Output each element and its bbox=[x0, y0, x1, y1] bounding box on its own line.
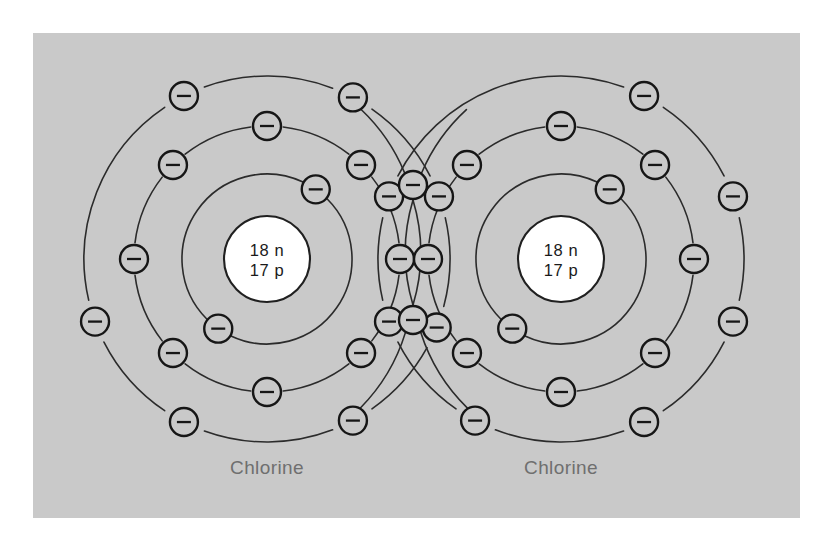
right-chlorine-atom-nucleus-neutrons-label: 18 n bbox=[544, 241, 579, 259]
right-chlorine-atom-caption: Chlorine bbox=[524, 457, 598, 478]
left-chlorine-atom-middle-shell-electron-6 bbox=[159, 339, 187, 367]
right-chlorine-atom-outer-shell-electron-1 bbox=[630, 82, 658, 110]
right-chlorine-atom-nucleus-circle bbox=[518, 216, 604, 302]
left-chlorine-atom-outer-shell-electron-3 bbox=[425, 182, 453, 210]
chlorine-molecule-diagram: 18 n17 p18 n17 p ChlorineChlorine bbox=[0, 0, 829, 544]
left-chlorine-atom-nucleus-neutrons-label: 18 n bbox=[250, 241, 285, 259]
right-chlorine-atom-outer-shell-electron-4 bbox=[630, 408, 658, 436]
right-chlorine-atom-outer-shell-electron-2 bbox=[719, 182, 747, 210]
right-chlorine-atom-inner-shell-electron-2 bbox=[498, 315, 526, 343]
right-chlorine-atom-middle-shell-electron-3 bbox=[680, 245, 708, 273]
right-chlorine-atom-outer-shell-electron-5 bbox=[461, 407, 489, 435]
left-chlorine-atom-outer-shell-electron-1 bbox=[170, 82, 198, 110]
right-chlorine-atom-middle-shell-electron-6 bbox=[453, 339, 481, 367]
left-chlorine-atom-outer-shell-electron-6 bbox=[170, 408, 198, 436]
right-chlorine-atom-nucleus-protons-label: 17 p bbox=[544, 261, 579, 279]
left-chlorine-atom-outer-shell-electron-2 bbox=[339, 83, 367, 111]
left-chlorine-atom-middle-shell-electron-4 bbox=[347, 339, 375, 367]
shared-electron-bottom bbox=[399, 306, 427, 334]
left-chlorine-atom-middle-shell-electron-1 bbox=[253, 112, 281, 140]
right-chlorine-atom-inner-shell-electron-1 bbox=[596, 175, 624, 203]
left-chlorine-atom-inner-shell-electron-2 bbox=[204, 315, 232, 343]
right-chlorine-atom-middle-shell-electron-8 bbox=[453, 151, 481, 179]
right-chlorine-atom-nucleus: 18 n17 p bbox=[518, 216, 604, 302]
left-chlorine-atom-outer-shell-electron-5 bbox=[339, 407, 367, 435]
left-chlorine-atom-middle-shell-electron-7 bbox=[120, 245, 148, 273]
right-chlorine-atom-middle-shell-electron-1 bbox=[547, 112, 575, 140]
illustration-panel bbox=[33, 33, 800, 518]
left-chlorine-atom-outer-shell-electron-7 bbox=[81, 308, 109, 336]
figure-stage: 18 n17 p18 n17 p ChlorineChlorine bbox=[0, 0, 829, 544]
shared-electron-top bbox=[399, 171, 427, 199]
left-chlorine-atom-middle-shell-electron-8 bbox=[159, 151, 187, 179]
left-chlorine-atom-middle-shell-electron-2 bbox=[347, 151, 375, 179]
right-chlorine-atom-middle-shell-electron-7 bbox=[414, 245, 442, 273]
right-chlorine-atom-middle-shell-electron-4 bbox=[641, 339, 669, 367]
left-chlorine-atom-inner-shell-electron-1 bbox=[302, 175, 330, 203]
left-chlorine-atom-nucleus-circle bbox=[224, 216, 310, 302]
left-chlorine-atom-middle-shell-electron-5 bbox=[253, 378, 281, 406]
left-chlorine-atom-nucleus: 18 n17 p bbox=[224, 216, 310, 302]
left-chlorine-atom-middle-shell-electron-3 bbox=[386, 245, 414, 273]
right-chlorine-atom-middle-shell-electron-2 bbox=[641, 151, 669, 179]
left-chlorine-atom-caption: Chlorine bbox=[230, 457, 304, 478]
right-chlorine-atom-outer-shell-electron-3 bbox=[719, 308, 747, 336]
right-chlorine-atom-middle-shell-electron-5 bbox=[547, 378, 575, 406]
left-chlorine-atom-nucleus-protons-label: 17 p bbox=[250, 261, 285, 279]
